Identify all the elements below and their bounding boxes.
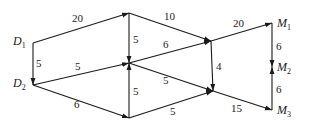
edge-weight-label: 6 [276, 40, 282, 52]
edge-weight-label: 20 [72, 12, 84, 24]
edge-weight-label: 4 [216, 60, 222, 72]
node-label-m3: M3 [276, 103, 291, 119]
node-label-subscript: 1 [22, 41, 26, 50]
edge-f-m3 [213, 91, 272, 110]
edge-weight-label: 5 [133, 33, 139, 45]
network-diagram: 2055565106455201566 D1D2M1M2M3 [0, 0, 312, 132]
edge-d2-c [33, 85, 129, 118]
node-label-main: D [12, 76, 22, 90]
edge-b-e [129, 41, 211, 63]
node-labels-layer: D1D2M1M2M3 [12, 16, 291, 119]
edge-weight-label: 20 [233, 17, 245, 29]
edge-d2-b [33, 63, 129, 85]
node-label-m1: M1 [276, 16, 291, 32]
edge-weight-label: 6 [276, 83, 282, 95]
node-label-m2: M2 [276, 60, 291, 76]
node-label-d2: D2 [12, 76, 26, 92]
node-label-subscript: 3 [287, 110, 291, 119]
edge-weight-label: 5 [75, 60, 81, 72]
edge-b-f [129, 63, 213, 91]
node-label-subscript: 1 [287, 23, 291, 32]
edge-weight-label: 5 [170, 105, 176, 117]
edge-weight-label: 5 [133, 85, 139, 97]
node-label-main: D [12, 34, 22, 48]
edge-e-f [211, 41, 213, 91]
node-label-subscript: 2 [287, 67, 291, 76]
edge-weight-label: 5 [163, 74, 169, 86]
node-label-d1: D1 [12, 34, 26, 50]
edge-weight-label: 6 [74, 98, 80, 110]
edge-weight-label: 10 [164, 10, 176, 22]
edge-weight-label: 15 [231, 102, 243, 114]
edge-weight-label: 6 [163, 38, 169, 50]
edge-weight-label: 5 [36, 57, 42, 69]
node-label-subscript: 2 [22, 83, 26, 92]
